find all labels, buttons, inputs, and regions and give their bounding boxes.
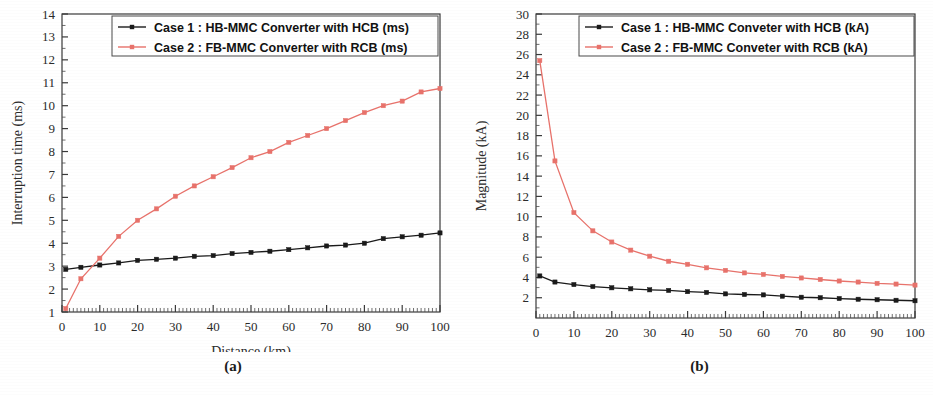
series-marker xyxy=(875,281,879,285)
series-marker xyxy=(538,59,542,63)
series-marker xyxy=(572,282,576,286)
chart-b: 2468101214161820222426283001020304050607… xyxy=(466,0,933,352)
y-tick-label: 24 xyxy=(516,67,530,82)
series-marker xyxy=(79,265,83,269)
plot-frame xyxy=(62,14,440,312)
series-marker xyxy=(818,296,822,300)
series-marker xyxy=(419,233,423,237)
y-tick-label: 18 xyxy=(516,128,529,143)
series-marker xyxy=(230,165,234,169)
series-marker xyxy=(837,296,841,300)
series-marker xyxy=(64,306,68,310)
y-axis-label: Interruption time (ms) xyxy=(10,100,26,225)
series-marker xyxy=(117,261,121,265)
y-tick-label: 30 xyxy=(516,7,529,22)
series-marker xyxy=(287,140,291,144)
x-tick-label: 60 xyxy=(757,325,770,340)
x-tick-label: 10 xyxy=(567,325,580,340)
x-axis-label: Distance (km) xyxy=(686,350,766,352)
series-marker xyxy=(894,282,898,286)
series-marker xyxy=(572,211,576,215)
series-marker xyxy=(287,248,291,252)
series-marker xyxy=(686,290,690,294)
series-marker xyxy=(268,249,272,253)
x-axis-label: Distance (km) xyxy=(211,344,291,352)
series-marker xyxy=(704,290,708,294)
y-tick-label: 22 xyxy=(516,88,529,103)
panel-b: 2468101214161820222426283001020304050607… xyxy=(466,0,933,395)
series-marker xyxy=(742,292,746,296)
series-marker xyxy=(799,276,803,280)
series-marker xyxy=(704,266,708,270)
x-tick-label: 10 xyxy=(93,319,106,334)
y-axis-label: Magnitude (kA) xyxy=(474,120,490,211)
series-marker xyxy=(667,288,671,292)
series-marker xyxy=(381,104,385,108)
x-tick-label: 0 xyxy=(59,319,66,334)
y-tick-label: 6 xyxy=(523,250,530,265)
series-marker xyxy=(761,293,765,297)
series-marker xyxy=(610,240,614,244)
legend-label: Case 1 : HB-MMC Converter with HCB (ms) xyxy=(154,21,409,35)
series-marker xyxy=(686,262,690,266)
series-marker xyxy=(629,287,633,291)
series-line-2 xyxy=(66,89,440,309)
x-tick-label: 100 xyxy=(905,325,925,340)
series-marker xyxy=(64,267,68,271)
series-marker xyxy=(553,159,557,163)
series-marker xyxy=(136,258,140,262)
y-tick-label: 10 xyxy=(42,98,55,113)
series-marker xyxy=(629,248,633,252)
series-marker xyxy=(79,277,83,281)
y-tick-label: 2 xyxy=(523,290,530,305)
legend-swatch-marker xyxy=(597,45,601,49)
series-marker xyxy=(343,243,347,247)
series-marker xyxy=(591,284,595,288)
series-marker xyxy=(192,184,196,188)
series-marker xyxy=(648,254,652,258)
series-marker xyxy=(400,235,404,239)
x-tick-label: 90 xyxy=(871,325,884,340)
series-marker xyxy=(723,292,727,296)
x-tick-label: 90 xyxy=(396,319,409,334)
y-tick-label: 14 xyxy=(516,169,530,184)
y-tick-label: 14 xyxy=(42,7,56,22)
x-tick-label: 40 xyxy=(207,319,220,334)
series-marker xyxy=(837,279,841,283)
series-marker xyxy=(381,237,385,241)
series-marker xyxy=(154,207,158,211)
x-tick-label: 70 xyxy=(320,319,333,334)
series-marker xyxy=(249,156,253,160)
series-marker xyxy=(325,244,329,248)
figure-panels-row: 1234567891011121314010203040506070809010… xyxy=(0,0,933,395)
series-marker xyxy=(306,246,310,250)
series-marker xyxy=(362,241,366,245)
x-tick-label: 20 xyxy=(605,325,618,340)
y-tick-label: 13 xyxy=(42,29,55,44)
x-tick-label: 50 xyxy=(719,325,732,340)
series-marker xyxy=(230,251,234,255)
legend-swatch-marker xyxy=(130,45,134,49)
y-tick-label: 11 xyxy=(42,75,55,90)
y-tick-label: 28 xyxy=(516,27,529,42)
y-tick-label: 16 xyxy=(516,148,530,163)
legend-label: Case 1 : HB-MMC Conveter with HCB (kA) xyxy=(621,21,869,35)
panel-b-caption: (b) xyxy=(466,358,933,375)
legend-swatch-marker xyxy=(597,25,601,29)
panel-a: 1234567891011121314010203040506070809010… xyxy=(0,0,466,395)
y-tick-label: 10 xyxy=(516,209,529,224)
x-tick-label: 60 xyxy=(282,319,295,334)
series-marker xyxy=(173,256,177,260)
series-marker xyxy=(761,272,765,276)
legend-label: Case 2 : FB-MMC Converter with RCB (ms) xyxy=(154,41,408,55)
series-marker xyxy=(856,280,860,284)
series-marker xyxy=(818,277,822,281)
series-marker xyxy=(154,257,158,261)
series-marker xyxy=(419,90,423,94)
y-tick-label: 7 xyxy=(49,167,56,182)
y-tick-label: 26 xyxy=(516,47,530,62)
x-tick-label: 100 xyxy=(430,319,450,334)
series-line-2 xyxy=(540,61,915,285)
y-tick-label: 4 xyxy=(523,270,530,285)
series-marker xyxy=(438,86,442,90)
